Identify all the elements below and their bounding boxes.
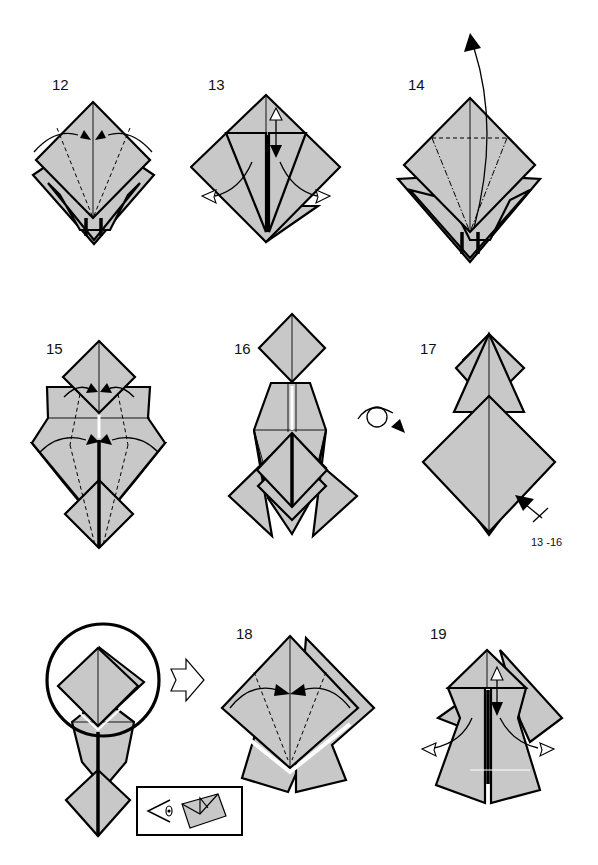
step-13-diagram — [190, 0, 390, 280]
step-17-diagram: 13 -16 — [400, 300, 598, 560]
open-arrowhead-icon — [422, 743, 436, 756]
step-19: 19 — [410, 620, 598, 865]
step-12: 12 — [0, 0, 200, 280]
step-12-diagram — [0, 0, 200, 280]
open-arrowhead-icon — [316, 190, 330, 203]
step-19-diagram — [410, 620, 598, 865]
step-15-diagram — [0, 300, 200, 550]
repeat-steps-label: 13 -16 — [531, 536, 562, 548]
step-14-diagram — [390, 0, 598, 280]
step-15: 15 — [0, 300, 200, 550]
step-17: 17 13 -16 — [400, 300, 598, 560]
step-13: 13 — [190, 0, 390, 280]
step-18-diagram — [210, 620, 410, 820]
next-view-arrow-icon — [168, 655, 212, 705]
arrowhead-icon — [464, 33, 481, 52]
open-arrowhead-icon — [202, 190, 216, 203]
open-arrowhead-icon — [540, 743, 554, 756]
step-14: 14 — [390, 0, 598, 280]
step-18: 18 — [210, 620, 410, 820]
